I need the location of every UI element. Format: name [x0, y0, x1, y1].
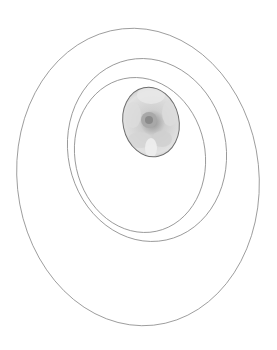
- nested-rings-figure: [0, 0, 277, 350]
- outer-ring: [2, 16, 274, 338]
